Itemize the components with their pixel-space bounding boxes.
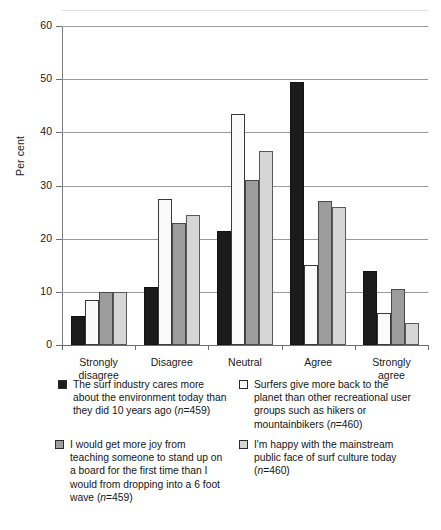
- legend-item-surf-industry-cares: The surf industry cares moreabout the en…: [58, 378, 233, 418]
- bar-surf-industry-cares: [217, 231, 231, 345]
- bar-surf-industry-cares: [290, 82, 304, 345]
- bar-happy-mainstream-face: [405, 323, 419, 345]
- bar-surf-industry-cares: [144, 287, 158, 345]
- bar-more-joy-teaching: [391, 289, 405, 345]
- legend-item-more-joy-teaching: I would get more joy fromteaching someon…: [55, 438, 235, 504]
- axes: 0102030405060 Strongly disagreeDisagreeN…: [62, 26, 428, 345]
- x-tick-label: Agree: [282, 356, 355, 369]
- y-tick-label-20: 20: [22, 232, 52, 244]
- legend-label-more-joy-teaching: I would get more joy fromteaching someon…: [70, 438, 222, 504]
- legend-swatch-dark-gray-icon: [55, 440, 64, 449]
- bar-surfers-give-more-back: [85, 300, 99, 345]
- bar-surf-industry-cares: [363, 271, 377, 345]
- bar-happy-mainstream-face: [186, 215, 200, 345]
- legend-label-surf-industry-cares: The surf industry cares moreabout the en…: [73, 378, 226, 418]
- bar-group: [62, 26, 135, 345]
- bar-more-joy-teaching: [172, 223, 186, 345]
- bar-surfers-give-more-back: [304, 265, 318, 345]
- y-tick-label-60: 60: [22, 19, 52, 31]
- bar-group: [208, 26, 281, 345]
- legend-label-surfers-give-more-back: Surfers give more back to theplanet than…: [254, 378, 411, 431]
- bar-group: [355, 26, 428, 345]
- plot-area: Per cent 0102030405060 Strongly disagree…: [0, 0, 441, 378]
- bar-surf-industry-cares: [71, 316, 85, 345]
- top-border-rule: [62, 10, 428, 11]
- x-tick: [282, 345, 283, 350]
- bar-group: [135, 26, 208, 345]
- bar-groups: [62, 26, 428, 345]
- x-tick: [208, 345, 209, 350]
- chart-legend: The surf industry cares moreabout the en…: [0, 376, 441, 530]
- y-tick-label-30: 30: [22, 179, 52, 191]
- bar-happy-mainstream-face: [332, 207, 346, 345]
- y-tick-label-0: 0: [22, 338, 52, 350]
- legend-label-happy-mainstream-face: I'm happy with the mainstreampublic face…: [254, 438, 397, 478]
- legend-item-happy-mainstream-face: I'm happy with the mainstreampublic face…: [239, 438, 429, 478]
- legend-swatch-black-icon: [58, 380, 67, 389]
- x-tick: [428, 345, 429, 350]
- bar-more-joy-teaching: [99, 292, 113, 345]
- y-tick-label-50: 50: [22, 72, 52, 84]
- x-tick-label: Neutral: [208, 356, 281, 369]
- legend-swatch-white-icon: [239, 380, 248, 389]
- bar-more-joy-teaching: [318, 201, 332, 345]
- gridline-0: [62, 345, 428, 346]
- y-tick-label-40: 40: [22, 125, 52, 137]
- x-tick-label: Disagree: [135, 356, 208, 369]
- legend-item-surfers-give-more-back: Surfers give more back to theplanet than…: [239, 378, 429, 431]
- x-tick: [355, 345, 356, 350]
- legend-swatch-light-gray-icon: [239, 440, 248, 449]
- bar-happy-mainstream-face: [259, 151, 273, 345]
- x-tick: [135, 345, 136, 350]
- bar-more-joy-teaching: [245, 180, 259, 345]
- bar-surfers-give-more-back: [231, 114, 245, 345]
- x-tick: [62, 345, 63, 350]
- bar-surfers-give-more-back: [158, 199, 172, 345]
- bar-surfers-give-more-back: [377, 313, 391, 345]
- bar-happy-mainstream-face: [113, 292, 127, 345]
- bar-group: [282, 26, 355, 345]
- y-tick-label-10: 10: [22, 285, 52, 297]
- bar-chart-figure: Per cent 0102030405060 Strongly disagree…: [0, 0, 441, 530]
